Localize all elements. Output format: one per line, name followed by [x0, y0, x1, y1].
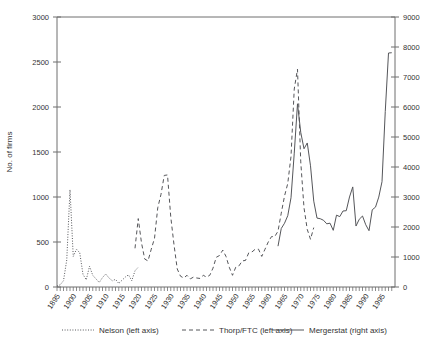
- x-axis-tick-label: 1895: [45, 292, 62, 311]
- x-axis-tick-label: 1975: [305, 292, 322, 311]
- series-line-thorp-ftc: [135, 69, 314, 279]
- chart-container: 0500100015002000250030000100020003000400…: [0, 0, 437, 346]
- right-axis-tick-label: 3000: [403, 193, 420, 202]
- right-axis-tick-label: 9000: [403, 13, 420, 22]
- legend-label-2: Mergerstat (right axis): [309, 326, 387, 335]
- x-axis-tick-label: 1965: [273, 292, 290, 311]
- right-axis-tick-label: 0: [403, 283, 407, 292]
- x-axis-tick-label: 1970: [289, 292, 306, 311]
- x-axis-tick-label: 1935: [175, 292, 192, 311]
- x-axis-tick-label: 1945: [208, 292, 225, 311]
- x-axis-tick-label: 1960: [256, 292, 273, 311]
- legend-label-0: Nelson (left axis): [99, 326, 159, 335]
- right-axis-tick-label: 6000: [403, 103, 420, 112]
- x-axis-tick-label: 1940: [191, 292, 208, 311]
- left-axis-tick-label: 0: [45, 283, 49, 292]
- x-axis-tick-label: 1925: [143, 292, 160, 311]
- series-group: [57, 53, 392, 286]
- x-axis-tick-label: 1995: [370, 292, 387, 311]
- x-axis-tick-label: 1985: [338, 292, 355, 311]
- left-axis-tick-label: 1000: [32, 193, 49, 202]
- x-axis-tick-label: 1915: [110, 292, 127, 311]
- left-axis-tick-label: 2000: [32, 103, 49, 112]
- series-line-nelson: [57, 190, 138, 286]
- x-axis-tick-label: 1930: [159, 292, 176, 311]
- right-axis-tick-label: 1000: [403, 253, 420, 262]
- left-axis-tick-label: 3000: [32, 13, 49, 22]
- x-axis-tick-label: 1920: [126, 292, 143, 311]
- left-axis-tick-label: 500: [36, 238, 49, 247]
- merger-waves-line-chart: 0500100015002000250030000100020003000400…: [0, 0, 437, 346]
- x-axis-tick-label: 1980: [321, 292, 338, 311]
- y-axis-title: No. of firms: [5, 132, 14, 173]
- x-axis-tick-label: 1955: [240, 292, 257, 311]
- right-axis-tick-label: 5000: [403, 133, 420, 142]
- axis-labels-group: 0500100015002000250030000100020003000400…: [5, 13, 420, 311]
- x-axis-tick-label: 1900: [61, 292, 78, 311]
- right-axis-tick-label: 8000: [403, 43, 420, 52]
- axes-group: [53, 17, 399, 291]
- right-axis-tick-label: 4000: [403, 163, 420, 172]
- x-axis-tick-label: 1950: [224, 292, 241, 311]
- right-axis-tick-label: 7000: [403, 73, 420, 82]
- x-axis-tick-label: 1990: [354, 292, 371, 311]
- left-axis-tick-label: 1500: [32, 148, 49, 157]
- chart-legend: Nelson (left axis)Thorp/FTC (left axis)M…: [62, 326, 387, 335]
- right-axis-tick-label: 2000: [403, 223, 420, 232]
- x-axis-tick-label: 1910: [94, 292, 111, 311]
- x-axis-tick-label: 1905: [78, 292, 95, 311]
- left-axis-tick-label: 2500: [32, 58, 49, 67]
